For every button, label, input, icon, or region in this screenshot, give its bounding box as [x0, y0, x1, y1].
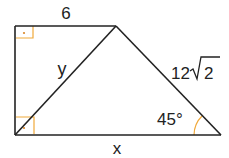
diagonal-y [15, 26, 116, 135]
label-angle: 45° [157, 110, 183, 129]
label-right-radicand: 2 [204, 64, 213, 83]
figure: 6 y 12 2 45° x [0, 0, 229, 158]
geometry-diagram: 6 y 12 2 45° x [0, 0, 229, 158]
label-y: y [58, 59, 67, 79]
label-top: 6 [61, 4, 70, 23]
right-angle-marker-top-left [16, 26, 33, 38]
label-x: x [113, 139, 122, 158]
trapezoid-edges [15, 26, 221, 135]
label-right-coefficient: 12 [171, 64, 190, 83]
angle-arc-45 [194, 116, 202, 135]
